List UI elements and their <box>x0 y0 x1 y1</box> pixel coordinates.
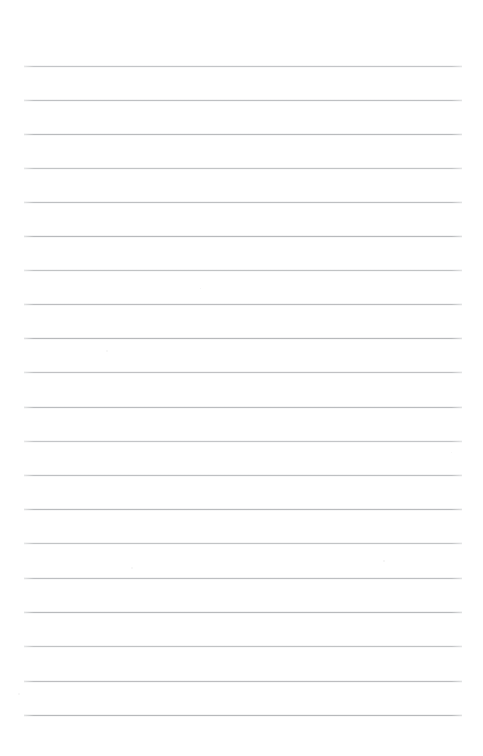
lined-paper-page <box>0 0 483 756</box>
writing-area[interactable] <box>24 66 462 716</box>
